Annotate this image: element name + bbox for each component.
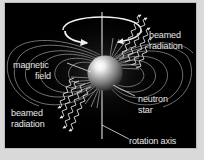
diagram-panel: beamed radiation magnetic field beamed r…	[5, 3, 196, 148]
neutron-star-sphere	[75, 43, 135, 103]
pulsar-diagram-svg	[5, 3, 196, 148]
figure-root: beamed radiation magnetic field beamed r…	[0, 0, 204, 160]
